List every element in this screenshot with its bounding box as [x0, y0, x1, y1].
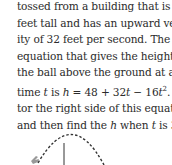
trajectory-figure [0, 0, 172, 165]
trajectory-curve [38, 134, 104, 165]
